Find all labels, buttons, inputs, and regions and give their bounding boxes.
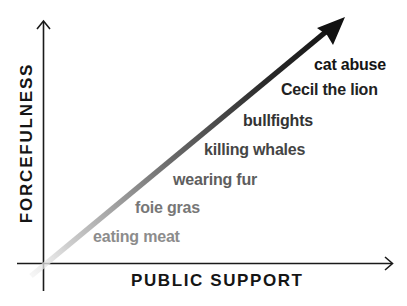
trend-arrowhead-icon: [317, 17, 345, 45]
item-label-wearing-fur: wearing fur: [173, 172, 257, 188]
diagram-canvas: eating meat foie gras wearing fur killin…: [0, 0, 407, 306]
y-axis: [37, 21, 50, 291]
item-label-eating-meat: eating meat: [93, 229, 180, 245]
item-label-foie-gras: foie gras: [135, 200, 200, 216]
item-label-killing-whales: killing whales: [204, 142, 305, 158]
x-axis-title: PUBLIC SUPPORT: [131, 272, 304, 289]
item-label-cecil-the-lion: Cecil the lion: [281, 82, 378, 98]
y-axis-title: FORCEFULNESS: [18, 63, 35, 223]
item-label-cat-abuse: cat abuse: [314, 57, 386, 73]
x-axis: [17, 257, 393, 270]
item-label-bullfights: bullfights: [243, 113, 313, 129]
